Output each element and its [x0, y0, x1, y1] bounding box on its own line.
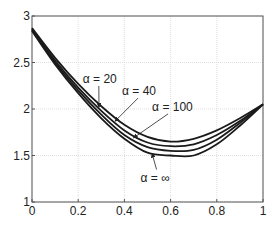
x-tick-label: 1	[260, 204, 267, 218]
annotation-label: α = 40	[122, 84, 156, 98]
line-chart: 00.20.40.60.8111.522.53 α = 20α = 40α = …	[0, 0, 276, 228]
axis-ticks: 00.20.40.60.8111.522.53	[13, 9, 266, 218]
y-tick-label: 3	[23, 9, 30, 23]
annotation-label: α = ∞	[141, 171, 170, 185]
y-tick-label: 1	[23, 195, 30, 209]
y-tick-label: 2.5	[13, 56, 30, 70]
x-tick-label: 0.6	[162, 204, 179, 218]
x-tick-label: 0.8	[208, 204, 225, 218]
y-tick-label: 2	[23, 102, 30, 116]
annotation-arrow	[115, 98, 138, 121]
x-tick-label: 0.4	[116, 204, 133, 218]
annotation-arrow	[152, 154, 156, 170]
annotation-label: α = 20	[83, 72, 117, 86]
y-tick-label: 1.5	[13, 149, 30, 163]
annotations: α = 20α = 40α = 100α = ∞	[83, 72, 193, 185]
annotation-label: α = 100	[152, 100, 193, 114]
x-tick-label: 0.2	[70, 204, 87, 218]
annotation-arrow	[134, 114, 168, 138]
